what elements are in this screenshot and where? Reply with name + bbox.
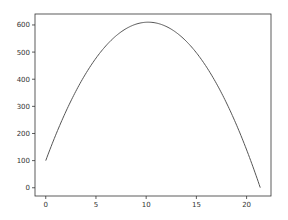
y-tick-label: 400 (17, 76, 30, 84)
y-tick-label: 300 (17, 103, 30, 111)
x-tick-label: 0 (44, 201, 48, 209)
x-tick-label: 10 (142, 201, 151, 209)
x-tick-label: 15 (192, 201, 201, 209)
y-tick-label: 0 (26, 184, 30, 192)
y-tick-label: 600 (17, 21, 30, 29)
plot-area (46, 22, 261, 187)
y-axis-ticks: 0100200300400500600 (17, 21, 35, 192)
axes-frame (35, 14, 271, 196)
y-tick-label: 500 (17, 49, 30, 57)
y-tick-label: 100 (17, 157, 30, 165)
x-tick-label: 20 (242, 201, 251, 209)
line-chart: 05101520 0100200300400500600 (0, 0, 288, 220)
x-tick-label: 5 (94, 201, 98, 209)
x-axis-ticks: 05101520 (44, 196, 252, 209)
y-tick-label: 200 (17, 130, 30, 138)
series-line-0 (46, 22, 261, 187)
